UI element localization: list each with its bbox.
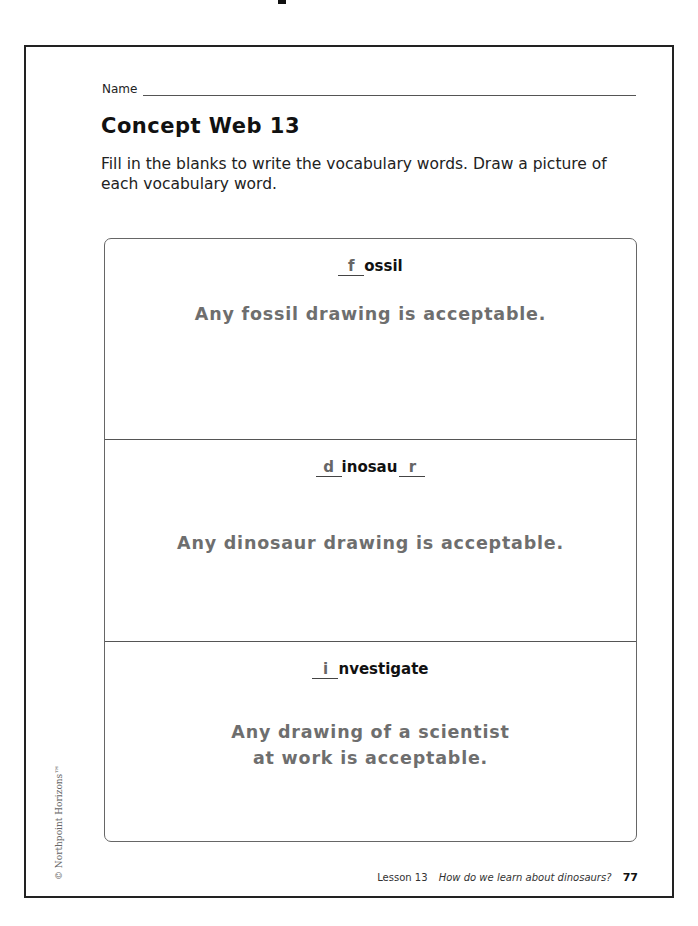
concept-cell-dinosaur: dinosaur Any dinosaur drawing is accepta… (105, 440, 636, 642)
top-crop-mark (278, 0, 286, 4)
answer-line-2: at work is acceptable. (105, 745, 636, 771)
concept-cell-investigate: investigate Any drawing of a scientist a… (105, 642, 636, 841)
answer-line-1: Any drawing of a scientist (105, 719, 636, 745)
name-input-line[interactable] (143, 85, 636, 96)
answer-text: Any drawing of a scientist at work is ac… (105, 719, 636, 771)
vocab-word-fossil: fossil (105, 257, 636, 276)
vocab-word-dinosaur: dinosaur (105, 458, 636, 477)
word-part: nvestigate (338, 660, 428, 678)
page-footer: Lesson 13 How do we learn about dinosaur… (377, 871, 638, 884)
concept-cell-fossil: fossil Any fossil drawing is acceptable. (105, 239, 636, 440)
fill-blank[interactable]: i (312, 661, 338, 679)
fill-blank[interactable]: r (399, 459, 425, 477)
fill-blank[interactable]: d (316, 459, 342, 477)
name-label: Name (102, 82, 137, 96)
page-title: Concept Web 13 (101, 114, 300, 138)
word-part: inosau (342, 458, 398, 476)
fill-blank[interactable]: f (338, 258, 364, 276)
lesson-label: Lesson 13 (377, 872, 427, 883)
lesson-question: How do we learn about dinosaurs? (439, 872, 612, 883)
answer-text: Any dinosaur drawing is acceptable. (105, 530, 636, 556)
copyright-notice: © Northpoint Horizons™ (54, 765, 64, 880)
vocab-word-investigate: investigate (105, 660, 636, 679)
answer-text: Any fossil drawing is acceptable. (105, 301, 636, 327)
page-number: 77 (623, 871, 638, 884)
name-row: Name (102, 82, 636, 96)
word-part: ossil (364, 257, 402, 275)
instructions: Fill in the blanks to write the vocabula… (101, 154, 646, 194)
concept-web-box: fossil Any fossil drawing is acceptable.… (104, 238, 637, 842)
